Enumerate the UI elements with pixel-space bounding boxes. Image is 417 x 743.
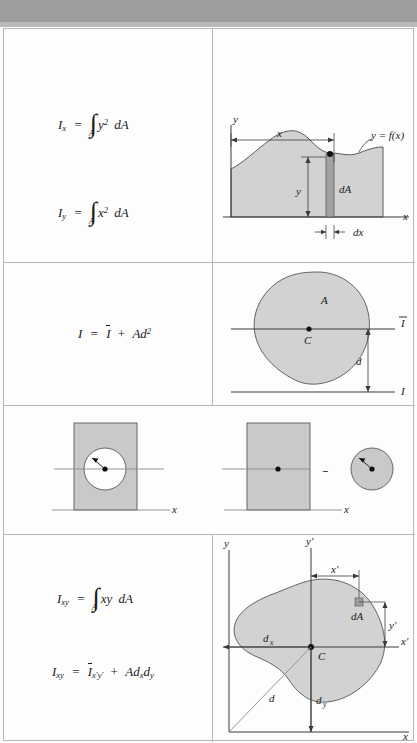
formula-iy-eq: = (74, 205, 81, 220)
pa-eq: = (91, 326, 98, 341)
dx-label: dx (353, 226, 364, 238)
dA-label-xy: dA (351, 610, 364, 622)
dx-sub-xy: x (269, 638, 274, 647)
ixy-body: xy (101, 591, 113, 606)
x-dimension-label: x (276, 127, 282, 139)
formula-ixy-parallel: Ixy = Ix′y′ + Adxdy (52, 664, 154, 680)
xprime-dim-label: x′ (330, 563, 339, 575)
pa-ibar: I (106, 326, 110, 342)
xprime-arrow-left (223, 644, 229, 649)
formula-ix-lhs-sub: x (62, 123, 66, 133)
dy-sub-xy: y (322, 700, 327, 709)
formula-ix: Ix = ∫Ay2 dA (58, 117, 129, 133)
yprime-label: y′ (305, 535, 314, 547)
formula-ix-eq: = (74, 117, 81, 132)
minus-operator: − (322, 465, 328, 477)
centroid-label-xy: C (318, 650, 326, 662)
row1-formula-cell: Ix = ∫Ay2 dA Iy = ∫Ax2 dA (4, 29, 212, 262)
row2-diagram-cell: A I C I d (213, 262, 414, 405)
dy-label-xy: d (316, 694, 322, 706)
pa-plus: + (118, 326, 125, 341)
dA-label: dA (339, 183, 352, 195)
reference-table: Ix = ∫Ay2 dA Iy = ∫Ax2 dA y x (3, 28, 414, 741)
ixyp-ibar-sub: x′y′ (92, 670, 103, 680)
area-region (231, 131, 383, 217)
ixy-lhs-sub: xy (61, 597, 69, 607)
formula-ix-diff: dA (114, 117, 128, 132)
global-x-label: x (402, 730, 408, 742)
d-arrow-bottom (365, 386, 370, 392)
row4-formula-cell: Ixy = ∫Axy dA Ixy = Ix′y′ + Adxdy (4, 534, 212, 742)
centroid-dot (306, 326, 311, 331)
x-axis-label: x (402, 210, 408, 222)
integral-sub-ix: A (89, 129, 94, 138)
formula-ixy-integral: Ixy = ∫Axy dA (57, 591, 133, 607)
ixyp-lhs-sub: xy (56, 670, 64, 680)
y-axis-label: y (232, 113, 238, 125)
xprime-dim-arrow-left (311, 574, 317, 579)
x-dim-arrow-right (328, 137, 334, 142)
left-x-axis-label: x (171, 503, 177, 515)
centroidal-axis-label: I (400, 317, 406, 329)
formula-ix-body-sup: 2 (104, 117, 108, 127)
y-dimension-label: y (295, 185, 301, 197)
dx-arrow-right (334, 230, 339, 235)
row1-diagram-cell: y x x y y = f(x) (213, 29, 414, 262)
dy-dim-arrow (309, 726, 314, 732)
ixyp-area: A (125, 664, 133, 679)
ixyp-eq: = (72, 664, 79, 679)
ixyp-plus: + (111, 664, 118, 679)
row3-composite-cell: x x − (4, 405, 414, 534)
right-x-axis-label: x (343, 503, 349, 515)
formula-iy: Iy = ∫Ax2 dA (58, 205, 129, 221)
right-rect-centroid-dot (275, 466, 280, 471)
product-of-inertia-diagram: y x y′ x′ C dA (213, 534, 414, 742)
pa-d-sup: 2 (147, 326, 151, 336)
d-diagonal-label: d (269, 692, 275, 704)
integral-sub-iy: A (89, 217, 94, 226)
ixyp-ibar: I (88, 664, 92, 680)
reference-axis-label: I (400, 385, 406, 397)
figure-page: Ix = ∫Ay2 dA Iy = ∫Ax2 dA y x (0, 0, 417, 743)
yprime-dim-label: y′ (388, 619, 397, 631)
parallel-axis-diagram: A I C I d (213, 262, 414, 405)
d-label: d (356, 355, 362, 367)
formula-parallel-axis: I = I + Ad2 (78, 326, 151, 342)
dA-strip (326, 154, 334, 217)
ixyp-dy-sub: y (150, 670, 154, 680)
curve-point-marker (327, 151, 333, 157)
ixy-eq: = (77, 591, 84, 606)
row4-diagram-cell: y x y′ x′ C dA (213, 534, 414, 742)
x-dim-arrow-left (231, 137, 237, 142)
formula-iy-lhs-sub: y (62, 211, 66, 221)
xprime-dim-arrow-right (353, 574, 359, 579)
area-under-curve-diagram: y x x y y = f(x) (213, 29, 414, 262)
integral-sub-ixy: A (92, 603, 97, 612)
centroid-label: C (304, 334, 312, 346)
top-band-shade (0, 22, 417, 27)
dx-arrow-left (321, 230, 326, 235)
formula-iy-diff: dA (114, 205, 128, 220)
yprime-dim-arrow-top (383, 602, 388, 608)
global-y-label: y (223, 537, 229, 549)
blob-area-xy (234, 579, 385, 702)
pa-lhs: I (78, 326, 82, 341)
curve-equation-label: y = f(x) (370, 129, 404, 142)
blob-area (254, 272, 369, 384)
row2-formula-cell: I = I + Ad2 (4, 262, 212, 405)
dx-label-xy: d (263, 632, 269, 644)
formula-iy-body-sup: 2 (104, 205, 108, 215)
ixy-diff: dA (119, 591, 133, 606)
xprime-label: x′ (400, 635, 409, 647)
area-label: A (320, 294, 328, 306)
composite-subtraction-diagram: x x − (4, 405, 414, 534)
